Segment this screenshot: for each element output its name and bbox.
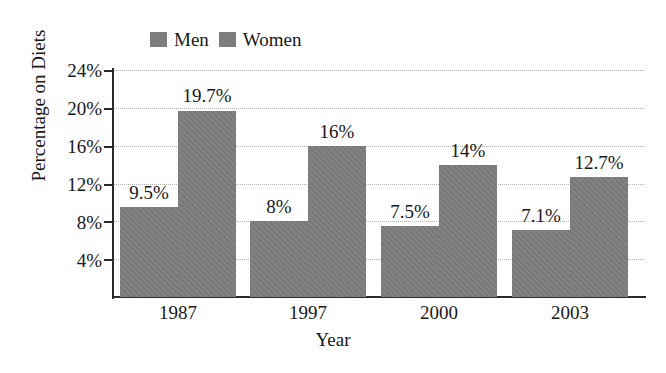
- plot-area: 9.5% 19.7% 8% 16% 7.5% 14% 7.1% 12.7%: [113, 70, 645, 297]
- bar-value-women-1997: 16%: [297, 122, 377, 141]
- bar-women-2003: [570, 177, 628, 297]
- bar-women-1987: [178, 111, 236, 297]
- legend-label-men: Men: [174, 30, 209, 49]
- y-tick-label: 20%: [40, 99, 102, 118]
- y-tick-8: [104, 221, 114, 223]
- legend-label-women: Women: [243, 30, 302, 49]
- x-tick-label-2000: 2000: [399, 303, 479, 322]
- y-tick-label: 24%: [40, 61, 102, 80]
- y-tick-4: [104, 259, 114, 261]
- y-axis-tick-labels: 24% 20% 16% 12% 8% 4%: [0, 0, 110, 373]
- gridline-20: [113, 108, 645, 109]
- y-tick-20: [104, 108, 114, 110]
- bar-women-1997: [308, 146, 366, 297]
- bar-value-men-2000: 7.5%: [370, 202, 450, 221]
- x-axis-title: Year: [0, 330, 666, 349]
- bar-value-women-2003: 12.7%: [559, 153, 639, 172]
- legend-item-women: Women: [219, 30, 302, 49]
- bar-men-1997: [250, 221, 308, 297]
- bar-value-men-1997: 8%: [239, 197, 319, 216]
- legend-swatch-men: [150, 32, 167, 47]
- legend-item-men: Men: [150, 30, 209, 49]
- bar-women-2000: [439, 165, 497, 297]
- chart-legend: Men Women: [150, 28, 301, 50]
- legend-swatch-women: [219, 32, 236, 47]
- bar-men-2000: [381, 226, 439, 297]
- y-tick-24: [104, 70, 114, 72]
- gridline-24: [113, 70, 645, 71]
- y-tick-16: [104, 146, 114, 148]
- bar-value-women-1987: 19.7%: [167, 86, 247, 105]
- x-tick-label-1997: 1997: [268, 303, 348, 322]
- bar-chart: Men Women Percentage on Diets 24% 20% 16…: [0, 0, 666, 373]
- y-tick-label: 16%: [40, 137, 102, 156]
- x-tick-label-2003: 2003: [530, 303, 610, 322]
- y-tick-label: 12%: [40, 175, 102, 194]
- bar-men-1987: [120, 207, 178, 297]
- y-tick-label: 8%: [40, 213, 102, 232]
- bar-value-women-2000: 14%: [428, 141, 508, 160]
- bar-men-2003: [512, 230, 570, 297]
- x-tick-label-1987: 1987: [138, 303, 218, 322]
- bar-value-men-2003: 7.1%: [501, 206, 581, 225]
- y-tick-label: 4%: [40, 251, 102, 270]
- bar-value-men-1987: 9.5%: [109, 183, 189, 202]
